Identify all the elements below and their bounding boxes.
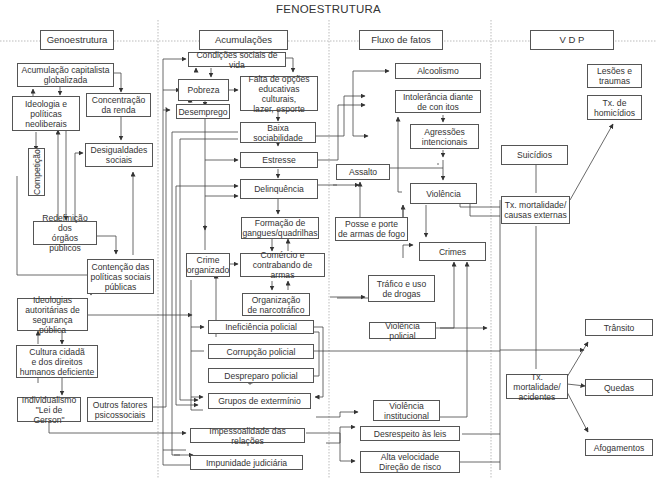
node-alcoolismo: Alcoolismo xyxy=(395,63,481,79)
node-desemprego: Desemprego xyxy=(176,104,230,119)
node-grupos-exterminio: Grupos de extermínio xyxy=(208,393,311,409)
node-condicoes-sociais: Condições sociais de vida xyxy=(188,52,286,67)
node-crime-organizado: Crime organizado xyxy=(186,253,230,277)
node-tx-mortalidade-externas: Tx. mortalidade/ causas externas xyxy=(501,196,570,224)
node-assalto: Assalto xyxy=(336,164,390,180)
node-individualismo: Individualismo "Lei de Gerson" xyxy=(17,397,81,422)
node-trafico-drogas: Tráfico e uso de drogas xyxy=(368,275,435,302)
node-tx-mortalidade-acidentes: Tx. mortalidade/ acidentes xyxy=(506,374,568,399)
node-contencao-politicas: Contenção das políticas sociais públicas xyxy=(87,259,154,294)
node-delinquencia: Delinquência xyxy=(240,179,318,199)
node-baixa-sociabilidade: Baixa sociabilidade xyxy=(240,122,316,143)
diagram-title: FENOESTRUTURA xyxy=(0,3,657,15)
node-violencia-institucional: Violência institucional xyxy=(373,400,440,421)
node-violencia: Violência xyxy=(410,183,477,204)
column-header-vdp: V D P xyxy=(530,30,614,50)
node-corrupcao-policial: Corrupção policial xyxy=(208,344,314,359)
column-header-genoestrutura: Genoestrutura xyxy=(40,30,114,50)
node-afogamentos: Afogamentos xyxy=(585,439,653,456)
node-lesoes-traumas: Lesões e traumas xyxy=(587,64,642,88)
node-ineficiencia-policial: Ineficiência policial xyxy=(208,320,314,334)
node-intolerancia: Intolerância diante de con itos xyxy=(395,90,481,113)
node-cultura-cidada: Cultura cidadã e dos direitos humanos de… xyxy=(16,345,98,378)
node-despreparo-policial: Despreparo policial xyxy=(208,368,314,383)
node-suicidios: Suicídios xyxy=(501,145,568,165)
node-competicao: Competição xyxy=(28,148,45,196)
node-acumulacao-capitalista: Acumulação capitalista globalizada xyxy=(17,63,114,87)
node-desigualdades: Desigualdades sociais xyxy=(85,143,153,167)
node-quedas: Quedas xyxy=(585,379,653,396)
node-formacao-gangues: Formação de gangues/quadrilhas xyxy=(241,217,319,239)
diagram-canvas: FENOESTRUTURA xyxy=(0,0,657,483)
node-violencia-policial: Violência policial xyxy=(369,322,436,339)
column-header-acumulacoes: Acumulações xyxy=(199,30,288,50)
node-narcotrafico: Organização de narcotráfico xyxy=(242,293,310,316)
node-concentracao-renda: Concentração da renda xyxy=(86,93,151,117)
column-header-fluxo-de-fatos: Fluxo de fatos xyxy=(359,30,443,50)
node-transito: Trânsito xyxy=(585,319,653,336)
node-impessoalidade: Impessoalidade das relações xyxy=(190,428,305,443)
node-comercio-armas: Comércio e contrabando de armas xyxy=(240,253,325,277)
node-posse-armas: Posse e porte de armas de fogo xyxy=(335,217,408,241)
node-ideologia-politicas: Ideologia e políticas neoliberais xyxy=(12,96,80,131)
node-ideologias-autoritarias: Ideologias autoritárias de segurança púb… xyxy=(17,298,88,331)
node-impunidade: Impunidade judiciária xyxy=(190,455,303,470)
node-estresse: Estresse xyxy=(240,152,318,168)
node-agressoes: Agressões intencionais xyxy=(410,124,479,149)
node-tx-homicidios: Tx. de homicídios xyxy=(587,95,642,120)
node-redefinicao-orgaos: Redefinição dos órgãos públicos xyxy=(33,221,97,245)
node-alta-velocidade: Alta velocidade Direção de risco xyxy=(360,451,460,473)
node-crimes: Crimes xyxy=(419,242,486,261)
node-outros-fatores: Outros fatores psicossociais xyxy=(87,397,153,422)
node-desrespeito-leis: Desrespeito às leis xyxy=(360,426,460,441)
node-pobreza: Pobreza xyxy=(178,79,229,101)
node-falta-opcoes: Falta de opções educativas culturais, la… xyxy=(240,76,318,111)
